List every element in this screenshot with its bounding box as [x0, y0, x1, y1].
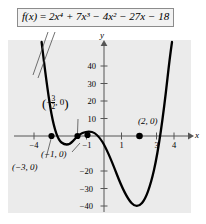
fraction-close-paren: )	[64, 96, 68, 111]
y-tick-label-neg40: −40	[71, 201, 93, 211]
root-dot-neg3	[48, 133, 54, 139]
y-axis-label: y	[100, 30, 104, 40]
x-tick-label-neg4: −4	[27, 140, 41, 150]
root-dot-2	[136, 133, 143, 140]
root-dot-neg-three-halves	[74, 133, 80, 139]
x-tick-label-3: 3	[150, 140, 164, 150]
leader-line-formula-a	[33, 32, 48, 75]
fraction-denominator: 2	[51, 102, 55, 111]
y-tick-label-20: 20	[74, 96, 96, 106]
root-dot-neg1	[84, 132, 90, 138]
annotation-root-neg1: (−1, 0)	[41, 150, 67, 159]
leader-line-root-neg1	[72, 143, 80, 152]
function-graph-figure: f(x) = 2x⁴ + 7x³ − 4x² − 27x − 18 y x 40…	[0, 0, 206, 224]
annotation-root-2: (2, 0)	[138, 117, 158, 126]
leader-line-formula-b	[38, 32, 55, 78]
fraction-numerator: 3	[51, 94, 55, 103]
annotation-root-neg3: (−3, 0)	[12, 163, 38, 172]
x-tick-label-1: 1	[115, 140, 129, 150]
x-tick-label-4: 4	[167, 140, 181, 150]
x-axis-label: x	[195, 130, 199, 140]
formula-terms: 2x⁴ + 7x³ − 4x² − 27x − 18	[49, 10, 169, 22]
y-tick-label-neg30: −30	[71, 184, 93, 194]
formula-equals: =	[40, 10, 46, 22]
formula-lhs: f(x)	[22, 10, 37, 22]
fraction-three-halves: 32	[51, 95, 55, 111]
formula-callout-box: f(x) = 2x⁴ + 7x³ − 4x² − 27x − 18	[17, 8, 174, 27]
y-tick-label-10: 10	[74, 114, 96, 124]
annotation-root-neg-three-halves: (−32, 0)	[42, 95, 69, 111]
y-tick-label-neg20: −20	[71, 166, 93, 176]
y-tick-label-40: 40	[74, 61, 96, 71]
fraction-rest: , 0	[55, 97, 64, 107]
y-tick-label-30: 30	[74, 79, 96, 89]
x-tick-label-neg1-inline: −1	[80, 140, 94, 150]
